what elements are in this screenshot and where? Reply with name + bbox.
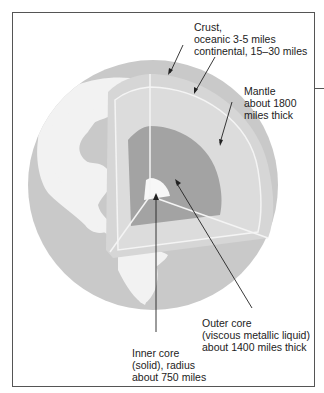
mantle-label: Mantle about 1800 miles thick [244, 85, 297, 121]
crust-label: Crust, oceanic 3-5 miles continental, 15… [194, 21, 307, 57]
inner-core-label: Inner core (solid), radius about 750 mil… [132, 347, 206, 383]
outer-core-label: Outer core (viscous metallic liquid) abo… [202, 317, 310, 353]
